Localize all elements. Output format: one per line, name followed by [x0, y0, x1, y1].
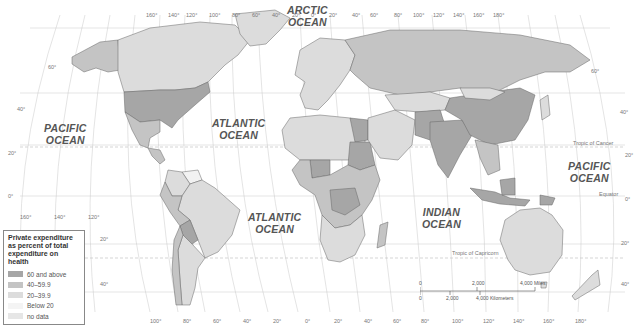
- country-new-zealand: [572, 270, 600, 300]
- legend-swatch: [8, 303, 23, 309]
- lon-top-label: 20°: [292, 12, 300, 18]
- country-borneo: [500, 178, 515, 195]
- lon-bottom-label: 140°: [513, 318, 524, 324]
- lon-top-label: 0°: [311, 12, 316, 18]
- country-png: [540, 195, 555, 205]
- lat-left-label: 20°: [100, 236, 108, 242]
- legend-swatch: [8, 271, 23, 277]
- scale-miles-0: 0: [419, 280, 422, 286]
- legend-item-20-39: 20–39.9: [8, 290, 80, 301]
- country-central-america: [148, 148, 165, 164]
- lon-top-label: 100°: [413, 12, 424, 18]
- lat-left-label: 40°: [100, 281, 108, 287]
- lon-bottom-label: 20°: [273, 318, 281, 324]
- legend-title: Private expenditure as percent of total …: [8, 234, 80, 266]
- lat-left-label: 20°: [8, 150, 16, 156]
- ocean-label-atlantic-south: ATLANTIC OCEAN: [248, 211, 301, 235]
- legend-item-no-data: no data: [8, 311, 80, 322]
- lon-bottom-label: 120°: [88, 214, 99, 220]
- lat-right-label: 40°: [620, 109, 628, 115]
- lon-top-label: 160°: [146, 12, 157, 18]
- lon-bottom-label: 20°: [334, 318, 342, 324]
- country-australia: [500, 208, 563, 275]
- lon-bottom-label: 80°: [421, 318, 429, 324]
- equator-label: Equator: [599, 191, 618, 197]
- legend: Private expenditure as percent of total …: [3, 230, 85, 325]
- ocean-label-pacific-east: PACIFIC OCEAN: [568, 160, 611, 184]
- lon-top-label: 100°: [209, 12, 220, 18]
- lon-top-label: 180°: [493, 12, 504, 18]
- ocean-name: ATLANTIC: [212, 117, 265, 129]
- ocean-name: OCEAN: [568, 172, 611, 184]
- lon-top-label: 80°: [232, 12, 240, 18]
- lon-bottom-label: 100°: [452, 318, 463, 324]
- lon-top-label: 60°: [252, 12, 260, 18]
- lon-top-label: 120°: [433, 12, 444, 18]
- ocean-name: INDIAN: [422, 206, 461, 218]
- legend-label: no data: [27, 313, 49, 320]
- lat-right-label: 0°: [625, 196, 630, 202]
- lon-top-label: 60°: [370, 12, 378, 18]
- country-alaska: [72, 40, 120, 72]
- legend-swatch: [8, 292, 23, 298]
- lon-bottom-label: 160°: [20, 214, 31, 220]
- country-indonesia: [470, 188, 530, 206]
- lon-bottom-label: 60°: [393, 318, 401, 324]
- legend-item-40-59: 40–59.9: [8, 280, 80, 291]
- ocean-name: OCEAN: [44, 134, 87, 146]
- lon-top-label: 140°: [168, 12, 179, 18]
- scale-miles-2000: 2,000: [472, 280, 485, 286]
- lon-bottom-label: 60°: [213, 318, 221, 324]
- country-canada: [118, 22, 250, 92]
- lon-bottom-label: 40°: [243, 318, 251, 324]
- ocean-label-indian: INDIAN OCEAN: [422, 206, 461, 230]
- legend-swatch: [8, 313, 23, 319]
- lon-bottom-label: 0°: [305, 318, 310, 324]
- tropic-of-cancer-label: Tropic of Cancer: [573, 140, 613, 146]
- ocean-name: OCEAN: [212, 129, 265, 141]
- ocean-name: PACIFIC: [44, 122, 87, 134]
- scale-miles-4000: 4,000 Miles: [520, 280, 546, 286]
- lon-top-label: 40°: [352, 12, 360, 18]
- country-sudan: [348, 142, 375, 170]
- lon-top-label: 40°: [272, 12, 280, 18]
- lon-top-label: 80°: [394, 12, 402, 18]
- lon-top-label: 120°: [186, 12, 197, 18]
- lon-bottom-label: 180°: [575, 318, 586, 324]
- legend-label: 60 and above: [27, 271, 66, 278]
- lat-left-label: 0°: [8, 193, 13, 199]
- tropic-of-capricorn-label: Tropic of Capricorn: [452, 250, 499, 256]
- legend-swatch: [8, 282, 23, 288]
- ocean-name: ATLANTIC: [248, 211, 301, 223]
- lon-top-label: 140°: [453, 12, 464, 18]
- ocean-name: OCEAN: [248, 223, 301, 235]
- scale-km-0: 0: [419, 295, 422, 301]
- scale-km-4000: 4,000 Kilometers: [476, 295, 514, 301]
- lat-right-label: 20°: [625, 152, 633, 158]
- country-russia: [345, 30, 590, 95]
- lon-bottom-label: 160°: [543, 318, 554, 324]
- lon-bottom-label: 40°: [364, 318, 372, 324]
- country-japan: [540, 95, 550, 120]
- ocean-name: OCEAN: [422, 218, 461, 230]
- lat-right-label: 60°: [591, 68, 599, 74]
- country-india: [430, 120, 472, 178]
- region-central-asia: [385, 92, 450, 112]
- ocean-label-atlantic-north: ATLANTIC OCEAN: [212, 117, 265, 141]
- lat-left-label: 40°: [17, 106, 25, 112]
- lon-bottom-label: 140°: [54, 214, 65, 220]
- lat-left-label: 60°: [48, 64, 56, 70]
- lon-top-label: 20°: [329, 12, 337, 18]
- lat-right-label: 20°: [621, 240, 629, 246]
- lon-bottom-label: 80°: [183, 318, 191, 324]
- legend-label: 40–59.9: [27, 281, 51, 288]
- lon-bottom-label: 120°: [483, 318, 494, 324]
- ocean-label-pacific-west: PACIFIC OCEAN: [44, 122, 87, 146]
- scale-km-2000: 2,000: [446, 295, 459, 301]
- legend-item-60-above: 60 and above: [8, 269, 80, 280]
- region-europe: [295, 38, 355, 110]
- landmasses: [72, 10, 600, 305]
- lat-right-label: 40°: [621, 281, 629, 287]
- region-middle-east: [368, 110, 415, 160]
- lon-top-label: 160°: [473, 12, 484, 18]
